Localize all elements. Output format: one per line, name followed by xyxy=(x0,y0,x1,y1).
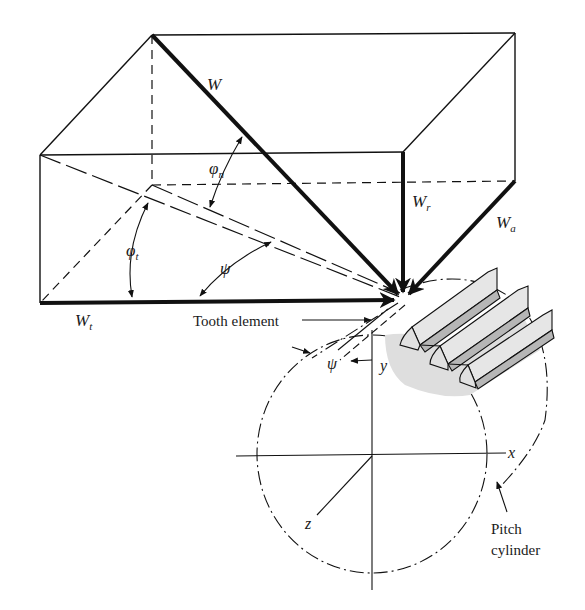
label-x-axis: x xyxy=(507,444,515,461)
x-axis xyxy=(236,453,506,456)
W-vector xyxy=(152,35,398,294)
label-Wr: Wr xyxy=(412,192,431,213)
y-arrow xyxy=(351,360,372,361)
label-psi-upper: ψ xyxy=(220,259,231,278)
label-tooth-element: Tooth element xyxy=(193,313,280,329)
z-axis xyxy=(317,456,372,515)
label-psi-lower: ψ xyxy=(327,355,338,373)
label-y-axis: y xyxy=(378,357,388,375)
label-phi-t: φt xyxy=(126,241,139,262)
helical-gear-force-diagram: W φn φt ψ Wr Wa Wt Tooth element ψ y x z… xyxy=(0,0,585,610)
psi-tick-arrow xyxy=(292,347,310,353)
label-pitch-cylinder: Pitch cylinder xyxy=(491,521,540,558)
Wt-vector xyxy=(40,300,394,303)
label-Wa: Wa xyxy=(496,213,516,234)
pitch-arrow xyxy=(497,482,507,512)
psi-arc xyxy=(200,242,271,296)
label-Wt: Wt xyxy=(75,311,93,332)
label-W: W xyxy=(207,75,223,94)
label-phi-n: φn xyxy=(209,159,224,180)
force-vectors xyxy=(40,35,515,303)
angle-arcs xyxy=(130,137,271,297)
label-z-axis: z xyxy=(304,515,312,532)
